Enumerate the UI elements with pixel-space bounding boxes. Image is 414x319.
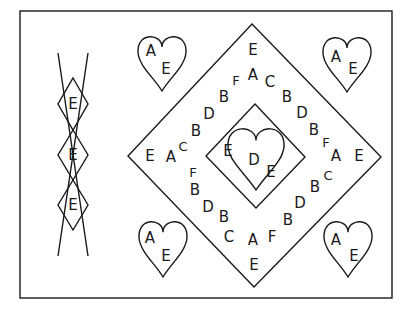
ring-letter: B [190,181,200,199]
heart-letter: D [248,151,260,169]
ring-letter: D [203,105,215,123]
ring-letter: E [354,147,363,165]
ring-letter: B [219,208,229,226]
ring-letter: C [224,228,234,246]
ring-letter: A [248,231,259,249]
ring-letter: B [283,211,293,229]
ring-letter: B [310,178,320,196]
heart-letter: E [223,142,232,160]
ring-letter: B [219,88,229,106]
heart-letter: E [266,163,275,181]
ring-letter: F [189,165,196,180]
heart-letter: A [146,42,157,60]
ring-letter: D [202,198,214,216]
ring-letter: C [265,73,275,91]
heart-letter: E [349,247,358,265]
ring-letter: A [331,147,342,165]
ring-letter: A [248,66,259,84]
heart-letter: A [145,229,156,247]
heart-letter: E [348,60,357,78]
ring-letter: E [145,147,154,165]
chain-letter: E [68,95,77,113]
ring-letter: A [166,148,177,166]
quilt-diagram: EEE EDE AEAEAEAE EAFCBBDDBBCFEAAEFCBBDDB… [0,0,414,319]
heart-letter: A [331,48,342,66]
ring-letter: F [268,228,277,246]
ring-letter: E [248,41,257,59]
ring-letter: E [249,256,258,274]
ring-letter: D [294,194,306,212]
ring-letter: B [282,88,292,106]
ring-letter: C [178,139,187,154]
heart-letter: E [161,247,170,265]
ring-letter: D [296,104,308,122]
heart-letter: A [331,231,342,249]
chain-letter: E [68,196,77,214]
ring-letter: F [232,73,239,88]
heart-letter: E [161,60,170,78]
ring-letter: F [322,135,329,150]
ring-letter: C [323,168,332,183]
chain-letter: E [68,146,77,164]
ring-letter: B [191,122,201,140]
ring-letter: B [309,121,319,139]
